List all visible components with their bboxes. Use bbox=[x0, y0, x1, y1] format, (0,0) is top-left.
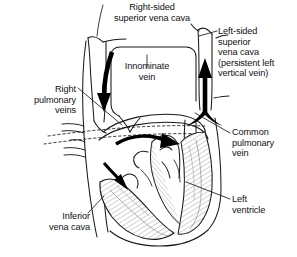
label-left-ventricle: Left ventricle bbox=[232, 194, 294, 215]
anatomy-figure: Right-sided superior vena cava Left-side… bbox=[0, 0, 297, 257]
label-right-pulmonary-veins: Right pulmonary veins bbox=[6, 84, 76, 116]
label-left-superior-vena-cava: Left-sided superior vena cava (persisten… bbox=[218, 26, 297, 79]
label-inferior-vena-cava: Inferior vena cava bbox=[24, 211, 90, 232]
label-innominate-vein: Innominate vein bbox=[111, 61, 183, 82]
label-common-pulmonary-vein: Common pulmonary vein bbox=[232, 127, 296, 159]
label-right-superior-vena-cava: Right-sided superior vena cava bbox=[104, 2, 200, 23]
